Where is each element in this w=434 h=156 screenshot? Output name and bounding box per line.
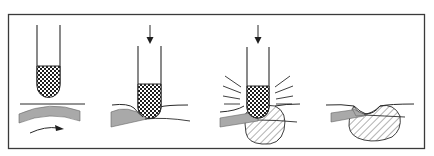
diagram-canvas [0, 0, 434, 156]
panel-2 [111, 25, 190, 127]
down-arrow-icon [255, 25, 262, 44]
tip [138, 46, 161, 119]
flow-arrow-icon [30, 125, 64, 133]
tip [247, 47, 269, 118]
panel-1 [19, 25, 85, 133]
gray-layer [19, 106, 80, 123]
down-arrow-icon [147, 25, 154, 44]
panel-4 [326, 104, 414, 141]
panel-3 [220, 25, 300, 144]
tip [37, 25, 60, 98]
lower-surface-line [145, 118, 190, 121]
